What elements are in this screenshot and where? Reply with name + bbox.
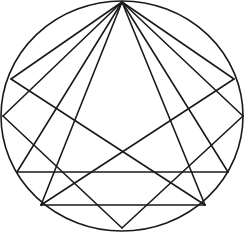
geometry-diagram — [0, 0, 248, 233]
circumscribing-circle-shape — [1, 1, 243, 231]
chord-layer — [3, 2, 243, 228]
chord-upper-left-low-right — [11, 79, 205, 205]
chord-apex-low-right — [122, 2, 205, 205]
geometric-figure-canvas — [0, 0, 248, 233]
chord-apex-low-left — [41, 2, 122, 205]
chord-upper-right-low-left — [41, 79, 234, 205]
circle-layer — [1, 1, 243, 231]
